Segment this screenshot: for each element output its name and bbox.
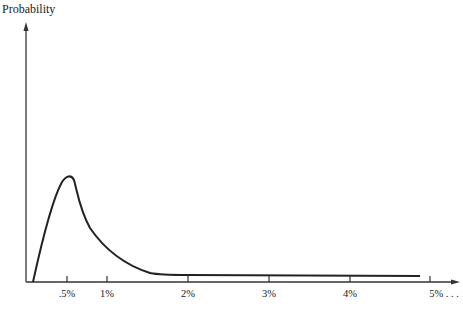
x-axis-arrow-icon xyxy=(451,280,460,285)
x-tick-label: 4% xyxy=(343,288,357,299)
x-tick-label: 1% xyxy=(100,288,114,299)
x-tick-label: .5% xyxy=(59,288,76,299)
x-tick-label: 3% xyxy=(262,288,276,299)
x-tick-label: 5% . . . xyxy=(429,288,459,299)
chart-plot xyxy=(0,0,463,309)
x-tick-label: 2% xyxy=(181,288,195,299)
distribution-curve xyxy=(33,176,420,282)
y-axis-arrow-icon xyxy=(24,22,29,31)
